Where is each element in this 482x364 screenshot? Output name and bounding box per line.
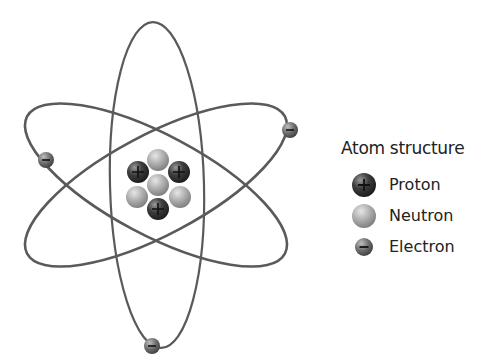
electron-sphere (144, 338, 160, 354)
legend-item-proton: Proton (341, 172, 464, 203)
legend: Atom structure Proton Neutron Electron (341, 138, 464, 265)
legend-title: Atom structure (341, 138, 464, 158)
electron-icon (351, 234, 377, 260)
electron-sphere (282, 122, 298, 138)
legend-label: Electron (389, 237, 455, 256)
atom-diagram (0, 0, 330, 364)
nucleus (126, 149, 191, 220)
proton-icon (351, 172, 377, 198)
neutron-sphere (147, 174, 169, 196)
legend-item-electron: Electron (341, 234, 464, 265)
legend-label: Neutron (389, 206, 453, 225)
proton-sphere (127, 161, 149, 183)
proton-sphere (147, 198, 169, 220)
electron-sphere (38, 152, 54, 168)
neutron-sphere (126, 186, 148, 208)
neutron-sphere (169, 186, 191, 208)
neutron-sphere (147, 149, 169, 171)
legend-label: Proton (389, 175, 441, 194)
neutron-icon (351, 203, 377, 229)
proton-sphere (168, 161, 190, 183)
legend-item-neutron: Neutron (341, 203, 464, 234)
